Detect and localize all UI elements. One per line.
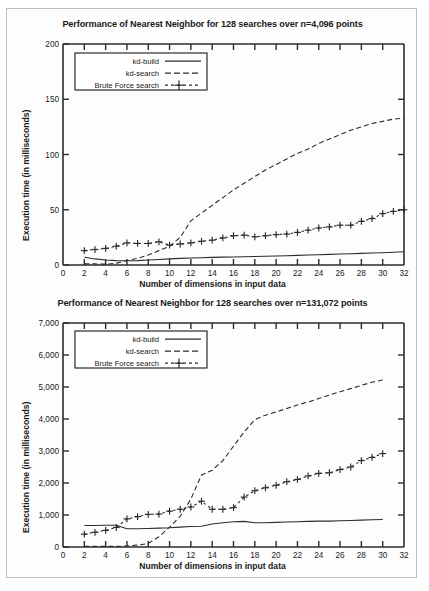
xtick-12: 12 [186, 551, 196, 560]
marker-plus [124, 515, 131, 522]
marker-plus [337, 222, 344, 229]
marker-plus [134, 513, 141, 520]
xtick-28: 28 [357, 551, 367, 560]
ytick-5000: 5,000 [39, 383, 60, 392]
xtick-20: 20 [272, 551, 282, 560]
chart-top-ytick-200: 200 [45, 40, 59, 49]
marker-plus [283, 231, 290, 238]
marker-plus [187, 504, 194, 511]
marker-plus [294, 229, 301, 236]
xtick-14: 14 [208, 269, 218, 278]
chart-top-ytick-0: 0 [54, 261, 59, 270]
chart-bottom-plot: 01,0002,0003,0004,0005,0006,0007,000 024… [7, 295, 418, 579]
xtick-28: 28 [357, 269, 367, 278]
xtick-32: 32 [399, 269, 409, 278]
marker-plus [379, 450, 386, 457]
chart-top-ytick-100: 100 [45, 151, 59, 160]
marker-plus [156, 238, 163, 245]
ytick-2000: 2,000 [39, 479, 60, 488]
xtick-6: 6 [125, 551, 130, 560]
chart-top-legend-label-0: kd-build [132, 57, 159, 66]
marker-plus [177, 241, 184, 248]
xtick-24: 24 [314, 269, 324, 278]
marker-plus [358, 218, 365, 225]
xtick-26: 26 [336, 551, 346, 560]
marker-plus [273, 231, 280, 238]
xtick-30: 30 [378, 269, 388, 278]
xtick-0: 0 [61, 551, 66, 560]
ytick-3000: 3,000 [39, 447, 60, 456]
xtick-20: 20 [272, 269, 282, 278]
marker-plus [347, 222, 354, 229]
marker-plus [92, 246, 99, 253]
marker-plus [347, 464, 354, 471]
figure-frame: Performance of Nearest Neighbor for 128 … [6, 8, 417, 578]
xtick-22: 22 [293, 551, 303, 560]
marker-plus [241, 494, 248, 501]
marker-plus [326, 223, 333, 230]
marker-plus [390, 208, 397, 215]
marker-plus [262, 232, 269, 239]
marker-plus [273, 482, 280, 489]
xtick-30: 30 [378, 551, 388, 560]
marker-plus [337, 466, 344, 473]
chart-bottom-series [81, 380, 386, 546]
marker-plus [124, 240, 131, 247]
marker-plus [166, 242, 173, 249]
xtick-6: 6 [125, 269, 130, 278]
xtick-24: 24 [314, 551, 324, 560]
chart-top-legend: kd-build kd-search Brute Force search [75, 53, 207, 90]
chart-bottom-legend: kd-build kd-search Brute Force search [75, 331, 207, 368]
xtick-10: 10 [165, 551, 175, 560]
marker-plus [81, 531, 88, 538]
marker-plus [145, 240, 152, 247]
marker-plus [187, 240, 194, 247]
marker-plus [379, 210, 386, 217]
xtick-18: 18 [250, 551, 260, 560]
chart-top-legend-label-1: kd-search [126, 69, 159, 78]
marker-plus [113, 243, 120, 250]
ytick-1000: 1,000 [39, 511, 60, 520]
xtick-18: 18 [250, 269, 260, 278]
marker-plus [134, 240, 141, 247]
xtick-2: 2 [82, 269, 87, 278]
marker-plus [219, 506, 226, 513]
series-line-brute-force-search [84, 210, 404, 251]
xtick-14: 14 [208, 551, 218, 560]
marker-plus [305, 473, 312, 480]
series-line-kd-build [84, 519, 382, 528]
marker-plus [198, 238, 205, 245]
marker-plus [81, 247, 88, 254]
marker-plus [209, 237, 216, 244]
xtick-10: 10 [165, 269, 175, 278]
xtick-4: 4 [103, 551, 108, 560]
chart-top-plot: 0 50 100 150 200 02468101214161820222426… [7, 9, 418, 295]
chart-top-ytick-50: 50 [50, 206, 60, 215]
chart-top: Performance of Nearest Neighbor for 128 … [7, 9, 418, 295]
xtick-0: 0 [61, 269, 66, 278]
xtick-2: 2 [82, 551, 87, 560]
marker-plus [251, 233, 258, 240]
chart-bottom: Performance of Nearest Neighbor for 128 … [7, 295, 418, 579]
marker-plus [156, 511, 163, 518]
xtick-4: 4 [103, 269, 108, 278]
chart-bottom-legend-label-1: kd-search [126, 347, 159, 356]
marker-plus [294, 476, 301, 483]
xtick-16: 16 [229, 551, 239, 560]
marker-plus [358, 457, 365, 464]
marker-plus [102, 245, 109, 252]
xtick-32: 32 [399, 551, 409, 560]
marker-plus [283, 478, 290, 485]
marker-plus [230, 232, 237, 239]
chart-bottom-legend-label-0: kd-build [132, 335, 159, 344]
marker-plus [177, 506, 184, 513]
ytick-6000: 6,000 [39, 351, 60, 360]
marker-plus [166, 508, 173, 515]
xtick-16: 16 [229, 269, 239, 278]
marker-plus [401, 206, 408, 213]
marker-plus [241, 232, 248, 239]
xtick-26: 26 [336, 269, 346, 278]
marker-plus [262, 484, 269, 491]
chart-top-series [81, 118, 407, 264]
marker-plus [102, 527, 109, 534]
